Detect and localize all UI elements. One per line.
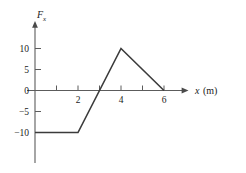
y-tick-label-5: 5 — [24, 65, 29, 75]
x-axis-arrow-icon — [182, 88, 189, 94]
y-axis-title-subscript: x — [42, 15, 46, 22]
y-tick-label-10: 10 — [20, 44, 30, 54]
y-axis-arrow-icon — [32, 21, 38, 28]
x-tick-label-2: 2 — [76, 95, 81, 105]
force-vs-position-figure: 10 5 0 −5 −10 2 4 6 Fx x(m) — [0, 0, 246, 173]
x-tick-label-6: 6 — [162, 95, 167, 105]
y-tick-label-0: 0 — [24, 86, 29, 96]
x-axis-title-unit: (m) — [203, 85, 217, 97]
y-tick-label-neg5: −5 — [19, 107, 29, 117]
x-tick-label-4: 4 — [119, 95, 124, 105]
y-axis-title: Fx — [36, 9, 46, 22]
chart-canvas: 10 5 0 −5 −10 2 4 6 Fx x(m) — [0, 0, 246, 173]
x-axis-title: x(m) — [194, 85, 217, 97]
x-axis-title-main: x — [194, 85, 200, 96]
y-tick-label-neg10: −10 — [14, 128, 29, 138]
